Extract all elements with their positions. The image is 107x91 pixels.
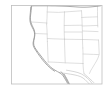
map-thumbnail-figure [0,0,107,91]
map-background [0,0,107,91]
map-canvas [0,0,107,91]
